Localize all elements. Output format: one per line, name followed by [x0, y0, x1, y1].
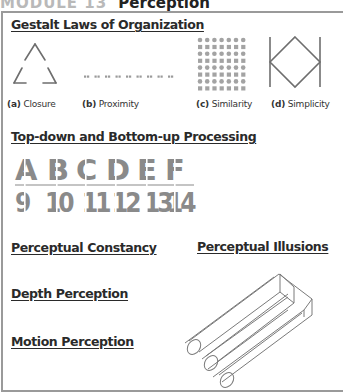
similarity-square [220, 73, 224, 77]
similarity-circle [198, 79, 203, 84]
proximity-dot [105, 76, 107, 78]
similarity-square [241, 59, 245, 63]
similarity-square [198, 45, 202, 49]
proximity-dot [95, 76, 97, 78]
similarity-circle [227, 38, 232, 43]
caption-label: Closure [23, 99, 55, 109]
caption-letter: (b) [82, 99, 96, 109]
proximity-dot [119, 76, 121, 78]
similarity-square [234, 45, 238, 49]
proximity-dot [171, 76, 173, 78]
impossible-trident-icon [176, 258, 332, 388]
stencil-letter: B [47, 153, 69, 187]
proximity-dot [147, 76, 149, 78]
similarity-square [241, 73, 245, 77]
proximity-dot [137, 76, 139, 78]
depth-title: Depth Perception [11, 286, 128, 301]
similarity-circle [241, 79, 246, 84]
similarity-circle [219, 79, 224, 84]
similarity-square [220, 45, 224, 49]
similarity-square [227, 73, 231, 77]
stencil-gap [174, 155, 176, 215]
proximity-dot [161, 76, 163, 78]
similarity-circle [219, 38, 224, 43]
diamond-between-bars-icon [268, 35, 323, 90]
similarity-circle [234, 38, 239, 43]
similarity-square [227, 45, 231, 49]
stencil-gap [56, 155, 58, 215]
caption-label: Proximity [99, 99, 139, 109]
stencil-gap [24, 155, 26, 215]
similarity-square [234, 59, 238, 63]
similarity-circle [212, 38, 217, 43]
similarity-square [234, 73, 238, 77]
similarity-circle [219, 65, 224, 70]
proximity-dot [168, 76, 170, 78]
similarity-square [227, 59, 231, 63]
stencil-gap [146, 155, 148, 215]
similarity-circle [227, 52, 232, 57]
similarity-square [212, 45, 216, 49]
similarity-circle [227, 79, 232, 84]
similarity-circle [198, 38, 203, 43]
stencil-letter: A [15, 153, 38, 187]
ambiguous-characters-figure: ABCDEF91011121314 [12, 155, 197, 215]
proximity-dot [87, 76, 89, 78]
caption-label: Similarity [212, 99, 253, 109]
similarity-square [227, 86, 231, 90]
similarity-circle [212, 65, 217, 70]
proximity-dot [126, 76, 128, 78]
motion-title: Motion Perception [11, 334, 134, 349]
similarity-square [220, 59, 224, 63]
similarity-square [241, 45, 245, 49]
stencil-gap [115, 155, 117, 215]
caption-simplicity: (d) Simplicity [271, 99, 330, 109]
similarity-square [198, 73, 202, 77]
gestalt-title: Gestalt Laws of Organization [11, 17, 204, 32]
similarity-circle [212, 52, 217, 57]
similarity-square [212, 59, 216, 63]
constancy-title: Perceptual Constancy [11, 240, 157, 255]
caption-letter: (c) [196, 99, 209, 109]
similarity-square [205, 59, 209, 63]
similarity-square [205, 73, 209, 77]
proximity-dot [116, 76, 118, 78]
proximity-dot [98, 76, 100, 78]
caption-letter: (a) [7, 99, 21, 109]
caption-label: Simplicity [288, 99, 330, 109]
proximity-dot [150, 76, 152, 78]
similarity-circle [212, 79, 217, 84]
similarity-circle [234, 79, 239, 84]
similarity-circle [198, 65, 203, 70]
broken-triangle-icon [8, 40, 58, 90]
similarity-square [198, 86, 202, 90]
paired-dots-icon [82, 75, 177, 79]
proximity-dot [140, 76, 142, 78]
similarity-circle [198, 52, 203, 57]
similarity-circle [234, 65, 239, 70]
stencil-number: 9 [15, 188, 30, 218]
similarity-square [234, 86, 238, 90]
similarity-circle [241, 65, 246, 70]
stencil-gap [85, 155, 87, 215]
similarity-circle [205, 52, 210, 57]
similarity-square [220, 86, 224, 90]
proximity-dot [108, 76, 110, 78]
similarity-circle [219, 52, 224, 57]
module-header: MODULE 13 Perception [0, 0, 210, 11]
dot-grid-icon [195, 35, 250, 90]
proximity-dot [158, 76, 160, 78]
similarity-square [212, 73, 216, 77]
caption-closure: (a) Closure [7, 99, 56, 109]
stencil-letter: D [106, 153, 130, 187]
caption-similarity: (c) Similarity [196, 99, 252, 109]
similarity-circle [205, 79, 210, 84]
stencil-number: 14 [167, 188, 196, 218]
similarity-circle [241, 52, 246, 57]
similarity-square [212, 86, 216, 90]
caption-proximity: (b) Proximity [82, 99, 139, 109]
proximity-dot [129, 76, 131, 78]
stencil-letter: C [76, 153, 97, 187]
similarity-circle [234, 52, 239, 57]
similarity-square [205, 45, 209, 49]
